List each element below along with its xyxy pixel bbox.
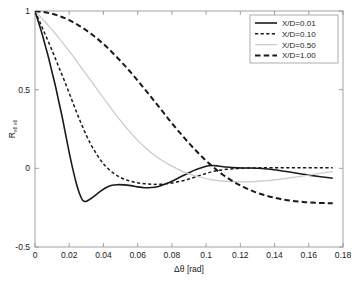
correlation-line-chart: 00.020.040.060.080.10.120.140.160.1810.5… bbox=[0, 0, 355, 284]
y-axis-title: Rvθ vθ bbox=[7, 120, 18, 139]
x-axis-tick-label: 0.16 bbox=[301, 250, 318, 260]
x-axis-title: Δθ [rad] bbox=[174, 264, 204, 274]
legend-entry-label: X/D=0.01 bbox=[282, 19, 316, 28]
x-axis-tick-label: 0.18 bbox=[335, 250, 352, 260]
x-axis-tick-label: 0.12 bbox=[232, 250, 249, 260]
legend-entry-label: X/D=0.10 bbox=[282, 30, 316, 39]
figure-container: 00.020.040.060.080.10.120.140.160.1810.5… bbox=[0, 0, 355, 284]
y-axis-tick-label: 0.5 bbox=[18, 85, 30, 95]
x-axis-tick-label: 0 bbox=[33, 250, 38, 260]
chart-legend: X/D=0.01X/D=0.10X/D=0.50X/D=1.00 bbox=[250, 15, 338, 63]
legend-entry-label: X/D=1.00 bbox=[282, 51, 316, 60]
y-axis-tick-label: 0 bbox=[25, 163, 30, 173]
y-axis-tick-label: -0.5 bbox=[15, 242, 30, 252]
y-axis-tick-label: 1 bbox=[25, 6, 30, 16]
x-axis-tick-label: 0.02 bbox=[61, 250, 78, 260]
legend-entry-label: X/D=0.50 bbox=[282, 41, 316, 50]
x-axis-tick-label: 0.08 bbox=[164, 250, 181, 260]
x-axis-tick-label: 0.14 bbox=[266, 250, 283, 260]
x-axis-tick-label: 0.04 bbox=[95, 250, 112, 260]
x-axis-tick-label: 0.1 bbox=[200, 250, 212, 260]
x-axis-tick-label: 0.06 bbox=[129, 250, 146, 260]
